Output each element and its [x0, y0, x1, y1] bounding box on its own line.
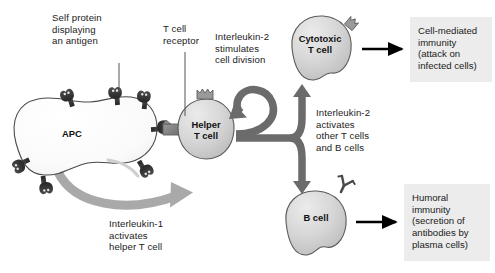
outcome-text-cell-mediated: Cell-mediated immunity (attack on infect…: [418, 25, 485, 72]
label-self-protein: Self protein displaying an antigen: [52, 12, 122, 47]
cell-label-apc: APC: [22, 128, 122, 139]
label-interleukin2-division: Interleukin-2 stimulates cell division: [215, 31, 291, 66]
outcome-box-humoral: Humoral immunity (secretion of antibodie…: [404, 184, 490, 261]
immunology-diagram: Self protein displaying an antigen T cel…: [0, 0, 495, 273]
outcome-box-cell-mediated: Cell-mediated immunity (attack on infect…: [410, 17, 492, 82]
interleukin2-loop-arrow: [229, 90, 273, 134]
cell-label-b-cell: B cell: [287, 212, 345, 223]
interleukin1-arrow: [58, 172, 193, 208]
label-interleukin1-activates: Interleukin-1 activates helper T cell: [109, 218, 189, 253]
outcome-text-humoral: Humoral immunity (secretion of antibodie…: [412, 192, 483, 251]
cell-label-cytotoxic-t-cell: Cytotoxic T cell: [290, 33, 350, 55]
cell-label-helper-t-cell: Helper T cell: [178, 119, 234, 141]
label-interleukin2-activates: Interleukin-2 activates other T cells an…: [316, 107, 394, 153]
antibody-receptor-icon: [333, 175, 356, 196]
